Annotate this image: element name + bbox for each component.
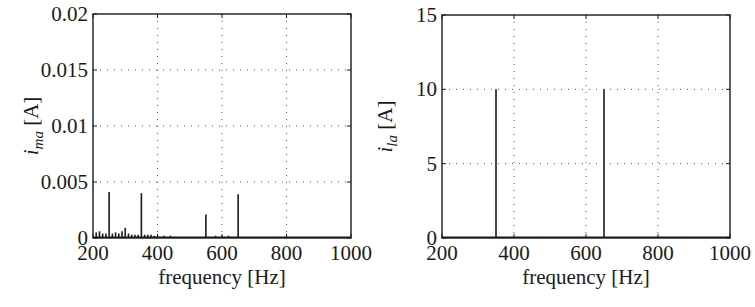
x-axis-label: frequency [Hz] <box>158 265 286 289</box>
figure: 200400600800100000.0050.010.0150.02frequ… <box>0 0 755 307</box>
chart-left-ima-spectrum: 200400600800100000.0050.010.0150.02frequ… <box>19 2 372 289</box>
y-axis-label-unit: [A] <box>19 97 43 131</box>
spectrum-stems <box>96 192 335 238</box>
x-tick-label: 600 <box>570 241 602 265</box>
x-axis-label: frequency [Hz] <box>522 265 650 289</box>
x-tick-label: 800 <box>642 241 674 265</box>
y-axis-label: ima [A] <box>19 97 46 156</box>
y-tick-label: 0 <box>427 226 438 250</box>
y-tick-label: 10 <box>416 77 437 101</box>
chart-right-ila-spectrum: 2004006008001000051015frequency [Hz]ila … <box>373 3 751 289</box>
y-tick-label: 5 <box>427 152 438 176</box>
grid-lines <box>442 15 730 238</box>
y-tick-label: 0.015 <box>41 58 88 82</box>
x-tick-label: 400 <box>142 241 174 265</box>
y-tick-label: 0.005 <box>41 170 88 194</box>
y-axis-label-subscript: ma <box>30 131 46 149</box>
x-tick-label: 600 <box>206 241 238 265</box>
x-tick-label: 400 <box>498 241 530 265</box>
y-tick-label: 0.01 <box>51 114 88 138</box>
x-tick-label: 1000 <box>330 241 372 265</box>
y-tick-label: 0 <box>78 226 89 250</box>
y-axis-label-unit: [A] <box>373 101 397 135</box>
grid-lines <box>93 14 351 238</box>
y-axis-label: ila [A] <box>373 101 400 153</box>
y-axis-label-subscript: la <box>384 135 400 147</box>
x-tick-label: 800 <box>271 241 303 265</box>
x-tick-label: 1000 <box>709 241 751 265</box>
y-tick-label: 0.02 <box>51 2 88 26</box>
y-tick-label: 15 <box>416 3 437 27</box>
